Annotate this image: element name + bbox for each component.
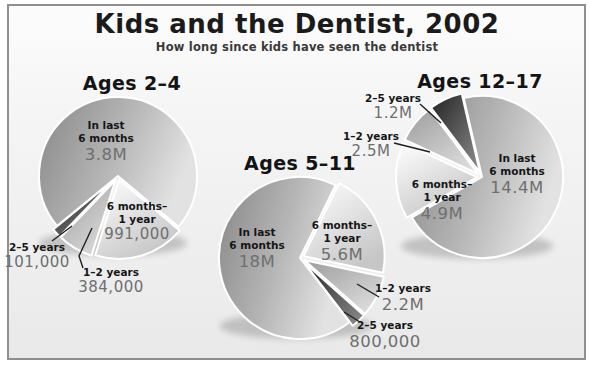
slice-category-line: In last <box>229 226 284 239</box>
slice-value: 101,000 <box>4 254 70 272</box>
slice-value: 14.4M <box>489 178 544 197</box>
slice-category-line: In last <box>489 152 544 165</box>
pie-title-ages-5-11: Ages 5–11 <box>244 152 356 174</box>
slice-category-line: 1 year <box>312 232 373 245</box>
slice-label-p2-in-last-6-months: In last 6 months 14.4M <box>489 152 544 198</box>
slice-label-p2-6-months-1-year: 6 months– 1 year 4.9M <box>412 178 473 224</box>
slice-label-p1-1-2-years: 1–2 years 2.2M <box>375 282 431 314</box>
slice-value: 991,000 <box>104 226 170 244</box>
slice-label-p0-6-months-1-year: 6 months– 1 year 991,000 <box>104 200 170 244</box>
slice-value: 2.2M <box>375 295 431 314</box>
slice-category-line: 6 months– <box>104 200 170 213</box>
slice-value: 1.2M <box>365 105 421 123</box>
slice-value: 4.9M <box>412 204 473 223</box>
slice-label-p2-2-5-years: 2–5 years 1.2M <box>365 92 421 123</box>
chart-title: Kids and the Dentist, 2002 <box>95 9 500 39</box>
slice-category-line: 6 months <box>78 132 133 145</box>
slice-value: 800,000 <box>349 332 421 351</box>
slice-value: 5.6M <box>312 245 373 264</box>
pie-title-ages-2-4: Ages 2–4 <box>83 72 181 94</box>
chart-subtitle: How long since kids have seen the dentis… <box>156 40 438 54</box>
slice-category-line: 6 months– <box>412 178 473 191</box>
slice-category-line: 1–2 years <box>375 282 431 295</box>
slice-label-p0-in-last-6-months: In last 6 months 3.8M <box>78 119 133 165</box>
slice-category-line: In last <box>78 119 133 132</box>
slice-label-p1-in-last-6-months: In last 6 months 18M <box>229 226 284 272</box>
slice-label-p0-1-2-years: 1–2 years 384,000 <box>78 266 144 297</box>
slice-category-line: 6 months <box>229 239 284 252</box>
slice-category-line: 1 year <box>412 191 473 204</box>
slice-category-line: 6 months <box>489 165 544 178</box>
pie-title-ages-12-17: Ages 12–17 <box>417 70 543 92</box>
kids-dentist-infographic: Kids and the Dentist, 2002 How long sinc… <box>0 0 590 367</box>
slice-label-p1-6-months-1-year: 6 months– 1 year 5.6M <box>312 219 373 265</box>
slice-label-p1-2-5-years: 2–5 years 800,000 <box>349 319 421 351</box>
slice-value: 384,000 <box>78 279 144 297</box>
slice-value: 18M <box>229 252 284 271</box>
slice-category-line: 2–5 years <box>349 319 421 332</box>
slice-label-p0-2-5-years: 2–5 years 101,000 <box>4 241 70 272</box>
slice-value: 2.5M <box>343 143 399 161</box>
slice-value: 3.8M <box>78 145 133 164</box>
slice-label-p2-1-2-years: 1–2 years 2.5M <box>343 130 399 161</box>
slice-category-line: 6 months– <box>312 219 373 232</box>
